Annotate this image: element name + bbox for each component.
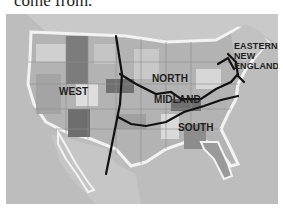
region-label-midland: MIDLAND (154, 95, 201, 105)
region-label-line-new: NEW (234, 51, 278, 61)
region-label-south: SOUTH (178, 123, 214, 133)
region-label-eastern-new-england: EASTERN NEW ENGLAND (234, 41, 278, 71)
region-label-west: WEST (59, 87, 88, 97)
caption-text: come from. (14, 0, 92, 11)
region-label-north: NORTH (152, 74, 188, 84)
region-label-line-eastern: EASTERN (234, 41, 278, 51)
dialect-map: WEST NORTH MIDLAND SOUTH EASTERN NEW ENG… (6, 14, 278, 204)
region-label-line-england: ENGLAND (234, 61, 278, 71)
